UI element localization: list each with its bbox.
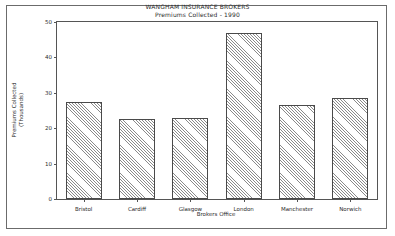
bar-slot bbox=[217, 22, 270, 199]
bar-norwich bbox=[332, 98, 368, 199]
y-tick-label: 50 bbox=[45, 19, 52, 25]
x-axis-title: Brokers Office bbox=[56, 211, 376, 217]
bar-london bbox=[226, 33, 262, 199]
x-tick-mark bbox=[190, 199, 191, 202]
bar-cardiff bbox=[119, 119, 155, 199]
bar-slot bbox=[164, 22, 217, 199]
chart-figure: WANGHAM INSURANCE BROKERS Premiums Colle… bbox=[0, 0, 395, 236]
y-tick-mark bbox=[54, 199, 57, 200]
y-axis-title-line-2: (Thousands) bbox=[17, 82, 24, 137]
bar-manchester bbox=[279, 105, 315, 199]
chart-title-block: WANGHAM INSURANCE BROKERS Premiums Colle… bbox=[0, 3, 395, 18]
x-tick-mark bbox=[297, 199, 298, 202]
bar-slot bbox=[324, 22, 377, 199]
bar-slot bbox=[110, 22, 163, 199]
bar-slot bbox=[57, 22, 110, 199]
plot-area: 01020304050 BristolCardiffGlasgowLondonM… bbox=[56, 21, 378, 200]
x-tick-mark bbox=[84, 199, 85, 202]
bar-glasgow bbox=[172, 118, 208, 199]
x-tick-mark bbox=[350, 199, 351, 202]
y-tick-label: 20 bbox=[45, 125, 52, 131]
y-tick-label: 40 bbox=[45, 54, 52, 60]
y-axis-title-line-1: Premiums Collected bbox=[11, 82, 18, 137]
y-tick-label: 0 bbox=[49, 196, 53, 202]
y-tick-label: 30 bbox=[45, 90, 52, 96]
bars-layer: BristolCardiffGlasgowLondonManchesterNor… bbox=[57, 22, 377, 199]
y-tick-label: 10 bbox=[45, 161, 52, 167]
y-axis-title: Premiums Collected (Thousands) bbox=[11, 82, 24, 137]
x-tick-mark bbox=[244, 199, 245, 202]
bar-slot bbox=[270, 22, 323, 199]
bar-bristol bbox=[66, 102, 102, 199]
x-tick-mark bbox=[137, 199, 138, 202]
chart-subtitle: Premiums Collected - 1990 bbox=[0, 11, 395, 19]
y-axis-title-container: Premiums Collected (Thousands) bbox=[11, 21, 23, 198]
chart-title: WANGHAM INSURANCE BROKERS bbox=[0, 3, 395, 11]
